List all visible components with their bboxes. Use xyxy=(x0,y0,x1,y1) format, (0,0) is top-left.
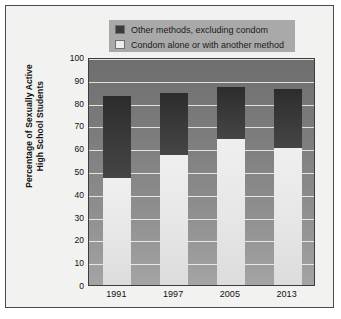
chart-legend: Other methods, excluding condom Condom a… xyxy=(109,20,295,52)
y-axis-tick-90: 90 xyxy=(75,76,84,86)
y-axis-tick-100: 100 xyxy=(70,53,84,63)
y-axis-tick-50: 50 xyxy=(75,167,84,177)
legend-label-condom: Condom alone or with another method xyxy=(131,40,284,50)
plot-area-wrapper: 0102030405060708090100 xyxy=(62,58,315,286)
bar-segment-other-methods-2005 xyxy=(217,87,245,139)
legend-swatch-other-methods-icon xyxy=(115,25,125,34)
y-axis-title-line-1: Percentage of Sexually Active xyxy=(24,64,34,188)
bar-segment-other-methods-1997 xyxy=(160,93,188,155)
y-axis-tick-80: 80 xyxy=(75,99,84,109)
x-axis-tick-1997: 1997 xyxy=(149,289,197,299)
x-axis-tick-1991: 1991 xyxy=(92,289,140,299)
y-axis-tick-0: 0 xyxy=(79,281,84,291)
gridline-100 xyxy=(89,59,314,60)
bar-1991 xyxy=(103,96,131,285)
legend-item-other-methods: Other methods, excluding condom xyxy=(115,23,291,36)
bar-segment-other-methods-2013 xyxy=(274,89,302,148)
legend-label-other-methods: Other methods, excluding condom xyxy=(131,25,268,35)
bar-segment-condom-1991 xyxy=(103,178,131,285)
y-axis-tick-30: 30 xyxy=(75,213,84,223)
y-axis-tick-40: 40 xyxy=(75,190,84,200)
y-axis-tick-20: 20 xyxy=(75,235,84,245)
bar-1997 xyxy=(160,93,188,285)
legend-swatch-condom-icon xyxy=(115,40,125,49)
plot-area xyxy=(88,58,315,286)
y-axis-tick-labels: 0102030405060708090100 xyxy=(62,58,84,286)
x-axis-tick-2013: 2013 xyxy=(263,289,311,299)
y-axis-tick-70: 70 xyxy=(75,121,84,131)
gridline-90 xyxy=(89,82,314,83)
legend-item-condom: Condom alone or with another method xyxy=(115,38,291,51)
y-axis-tick-60: 60 xyxy=(75,144,84,154)
x-axis-tick-2005: 2005 xyxy=(206,289,254,299)
bar-segment-condom-1997 xyxy=(160,155,188,285)
bar-segment-condom-2005 xyxy=(217,139,245,285)
y-axis-title: Percentage of Sexually Active High Schoo… xyxy=(24,34,54,219)
y-axis-tick-10: 10 xyxy=(75,258,84,268)
chart-figure: Other methods, excluding condom Condom a… xyxy=(5,5,334,308)
bar-segment-condom-2013 xyxy=(274,148,302,285)
y-axis-title-line-2: High School Students xyxy=(35,81,45,171)
bar-2005 xyxy=(217,87,245,285)
x-axis-tick-labels: 1991199720052013 xyxy=(88,289,315,305)
bar-2013 xyxy=(274,89,302,285)
bar-segment-other-methods-1991 xyxy=(103,96,131,178)
